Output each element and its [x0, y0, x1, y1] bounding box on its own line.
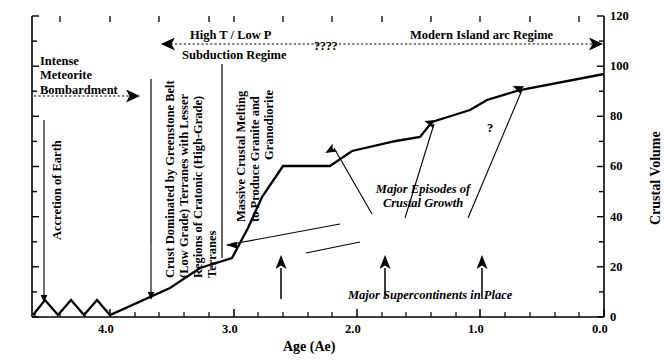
accretion-of-earth-label: Accretion of Earth [50, 140, 64, 240]
y-tick-label-80: 80 [610, 109, 623, 124]
y-tick-label-100: 100 [610, 59, 629, 74]
greenstone-line-4: Terranes [205, 231, 219, 278]
y-axis-left-ticks [32, 16, 39, 317]
uncertainty-question-mark: ? [487, 121, 493, 135]
y-axis-right-ticks [597, 16, 604, 317]
bombardment-line-2: Meteorite [40, 68, 118, 82]
top-edge-ticks [60, 16, 579, 22]
intense-meteorite-bombardment-label: Intense Meteorite Bombardment [40, 54, 118, 97]
bombardment-line-1: Intense [40, 54, 118, 68]
greenstone-line-3: Regions of Cratonic (High-Grade) [191, 96, 205, 278]
major-episodes-line-1: Major Episodes of [362, 182, 484, 196]
y-tick-label-120: 120 [610, 9, 629, 24]
x-tick-label-4: 4.0 [98, 322, 114, 337]
modern-island-arc-label: Modern Island arc Regime [410, 28, 553, 42]
bombardment-line-3: Bombardment [40, 83, 118, 97]
question-marks-label: ???? [314, 39, 337, 53]
y-tick-label-0: 0 [610, 310, 616, 325]
x-tick-label-1: 1.0 [468, 322, 484, 337]
major-episodes-label: Major Episodes of Crustal Growth [362, 182, 484, 211]
x-tick-label-3: 3.0 [222, 322, 238, 337]
major-supercontinents-label: Major Supercontinents in Place [348, 288, 512, 302]
greenstone-line-2: (Low Grade) Terranes with Lesser [177, 94, 191, 278]
greenstone-line-1: Crust Dominated by Greenstone Belt [163, 80, 177, 278]
y-axis-title: Crustal Volume [648, 131, 664, 225]
high-t-low-p-line-1: High T / Low P [190, 28, 272, 42]
crustal-volume-curve [33, 74, 604, 315]
x-tick-label-2: 2.0 [345, 322, 361, 337]
y-tick-label-60: 60 [610, 159, 623, 174]
y-tick-label-40: 40 [610, 210, 623, 225]
episode-leader-line [306, 242, 360, 253]
melting-line-2: to Produce Granite and [248, 96, 262, 222]
major-episodes-line-2: Crustal Growth [362, 196, 484, 210]
x-tick-label-0: 0.0 [592, 322, 608, 337]
melting-line-1: Massive Crustal Melting [234, 91, 248, 222]
melting-line-3: Granodiorite [262, 90, 276, 160]
high-t-low-p-line-2: Subduction Regime [182, 48, 287, 62]
y-tick-label-20: 20 [610, 260, 623, 275]
x-axis-title: Age (Ae) [283, 339, 335, 355]
